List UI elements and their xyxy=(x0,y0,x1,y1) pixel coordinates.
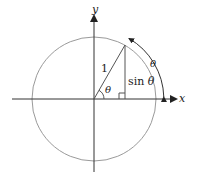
angle-arc xyxy=(99,90,104,99)
diagram-canvas: y x 1 θ θ sin θ xyxy=(0,0,198,172)
arc-length-arrow xyxy=(129,39,164,98)
y-axis-label: y xyxy=(91,3,99,16)
arc-length-label: θ xyxy=(150,58,156,69)
sine-label: sin θ xyxy=(128,75,155,88)
angle-label: θ xyxy=(105,84,111,95)
x-axis-label: x xyxy=(179,92,186,105)
sine-label-symbol: θ xyxy=(148,75,155,88)
right-angle-marker xyxy=(119,93,125,99)
unit-circle-diagram: y x 1 θ θ sin θ xyxy=(0,0,198,172)
sine-label-prefix: sin xyxy=(128,75,148,88)
radius-label: 1 xyxy=(101,62,108,75)
